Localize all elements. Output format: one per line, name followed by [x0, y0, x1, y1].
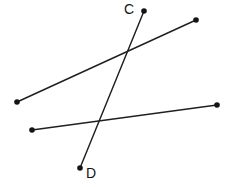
label-point-d: D — [86, 165, 96, 181]
point-upper-left — [14, 99, 20, 105]
point-upper-right — [193, 17, 199, 23]
geometry-figure-canvas: C D — [0, 0, 230, 187]
line-segments-group — [17, 11, 217, 168]
segment-upper — [17, 20, 196, 102]
segment-cd — [80, 11, 144, 168]
point-c — [141, 8, 147, 14]
geometry-figure-svg: C D — [0, 0, 230, 187]
segment-lower — [32, 105, 217, 130]
point-lower-right — [214, 102, 220, 108]
point-labels-group: C D — [86, 1, 134, 181]
point-d — [77, 165, 83, 171]
label-point-c: C — [124, 1, 134, 17]
point-lower-left — [29, 127, 35, 133]
